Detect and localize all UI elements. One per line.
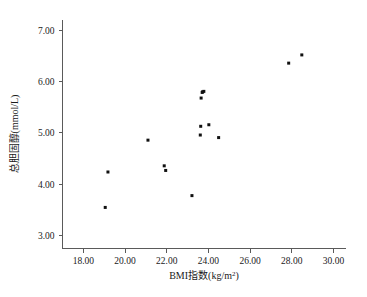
x-tick-label: 24.00 bbox=[198, 256, 220, 266]
y-tick-label: 3.00 bbox=[38, 231, 55, 241]
data-point-group bbox=[104, 53, 304, 209]
data-point bbox=[287, 62, 290, 65]
data-point bbox=[190, 194, 193, 197]
data-point bbox=[146, 139, 149, 142]
x-axis-title-base: BMI指数(kg/m bbox=[169, 269, 232, 282]
x-tick-label: 20.00 bbox=[114, 256, 136, 266]
x-axis-title: BMI指数(kg/m2) bbox=[169, 269, 239, 282]
y-tick-label: 7.00 bbox=[38, 26, 55, 36]
data-point bbox=[207, 123, 210, 126]
scatter-plot-figure: 3.004.005.006.007.00 18.0020.0022.0024.0… bbox=[0, 0, 367, 297]
y-tick-group: 3.004.005.006.007.00 bbox=[38, 26, 63, 241]
axes-group bbox=[63, 20, 347, 249]
x-tick-group: 18.0020.0022.0024.0026.0028.0030.00 bbox=[73, 249, 345, 266]
data-point bbox=[163, 164, 166, 167]
y-tick-label: 4.00 bbox=[38, 180, 55, 190]
x-tick-label: 30.00 bbox=[323, 256, 345, 266]
y-tick-label: 6.00 bbox=[38, 77, 55, 87]
data-point bbox=[217, 136, 220, 139]
data-point bbox=[300, 53, 303, 56]
data-point bbox=[200, 97, 203, 100]
data-point bbox=[104, 206, 107, 209]
x-tick-label: 28.00 bbox=[281, 256, 303, 266]
data-point bbox=[199, 125, 202, 128]
y-axis-title: 总胆固醇(mmol/L) bbox=[8, 95, 21, 174]
x-tick-label: 18.00 bbox=[73, 256, 95, 266]
plot-canvas: 3.004.005.006.007.00 18.0020.0022.0024.0… bbox=[0, 0, 367, 297]
y-tick-label: 5.00 bbox=[38, 128, 55, 138]
data-point bbox=[106, 170, 109, 173]
data-point bbox=[164, 169, 167, 172]
x-tick-label: 22.00 bbox=[156, 256, 178, 266]
data-point bbox=[201, 91, 204, 94]
x-axis-title-tail: ) bbox=[235, 270, 238, 282]
x-tick-label: 26.00 bbox=[239, 256, 261, 266]
data-point bbox=[199, 134, 202, 137]
